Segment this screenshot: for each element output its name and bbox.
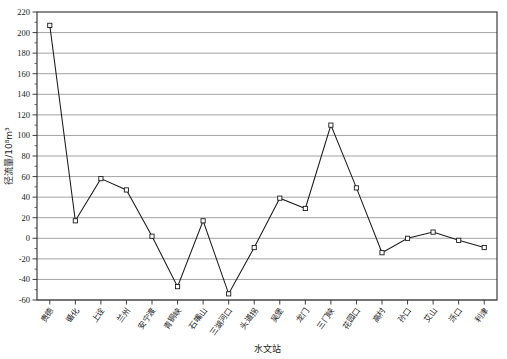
- data-point: [482, 245, 486, 249]
- data-point: [354, 186, 358, 190]
- x-tick-label: 龙门: [294, 305, 311, 324]
- y-tick-label: 0: [26, 233, 30, 243]
- data-point: [124, 188, 128, 192]
- x-tick-label: 三门峡: [315, 305, 337, 330]
- x-tick-label: 循化: [64, 305, 81, 324]
- x-tick-label: 利津: [472, 305, 489, 324]
- x-tick-label: 贵德: [38, 305, 55, 324]
- x-tick-label: 高村: [370, 305, 387, 324]
- y-tick-label: 120: [17, 110, 30, 120]
- data-point: [380, 251, 384, 255]
- y-tick-label: 180: [17, 48, 30, 58]
- y-axis-title: 径流量/10⁸m³: [3, 127, 14, 185]
- gridlines: [37, 33, 497, 300]
- y-tick-label: 140: [17, 89, 30, 99]
- data-point: [457, 238, 461, 242]
- chart-canvas: -60-40-20020406080100120140160180200220径…: [0, 0, 507, 359]
- x-tick-label: 上诠: [89, 305, 106, 324]
- x-tick-label: 花园口: [340, 305, 362, 330]
- y-tick-label: 20: [22, 213, 31, 223]
- data-point: [73, 219, 77, 223]
- x-axis-title: 水文站: [254, 343, 281, 354]
- y-tick-label: 220: [17, 7, 30, 17]
- y-tick-label: 200: [17, 28, 30, 38]
- y-tick-label: -20: [19, 254, 30, 264]
- y-tick-label: 100: [17, 130, 30, 140]
- data-point: [329, 123, 333, 127]
- data-point: [175, 285, 179, 289]
- data-point: [405, 236, 409, 240]
- data-point: [99, 177, 103, 181]
- x-tick-label: 兰州: [115, 305, 132, 324]
- y-tick-label: -40: [19, 274, 30, 284]
- data-point: [201, 219, 205, 223]
- x-tick-label: 泺口: [447, 305, 464, 324]
- data-point: [227, 292, 231, 296]
- x-tick-label: 吴堡: [268, 305, 285, 324]
- x-tick-label: 孙口: [396, 305, 413, 324]
- x-tick-label: 石嘴山: [187, 305, 209, 330]
- y-tick-label: 40: [22, 192, 31, 202]
- data-point: [252, 245, 256, 249]
- y-tick-label: 60: [22, 172, 31, 182]
- y-tick-label: 80: [22, 151, 31, 161]
- x-tick-label: 三湖河口: [208, 305, 235, 337]
- y-axis: -60-40-20020406080100120140160180200220: [17, 7, 37, 305]
- data-point-markers: [48, 23, 487, 296]
- runoff-line-chart: -60-40-20020406080100120140160180200220径…: [0, 0, 507, 359]
- x-tick-label: 安宁渡: [136, 305, 158, 330]
- x-tick-label: 艾山: [421, 305, 438, 324]
- data-point: [303, 206, 307, 210]
- x-tick-label: 头道拐: [238, 305, 260, 330]
- data-point: [48, 23, 52, 27]
- data-point: [431, 230, 435, 234]
- x-axis: 贵德循化上诠兰州安宁渡青铜峡石嘴山三湖河口头道拐吴堡龙门三门峡花园口高村孙口艾山…: [38, 300, 490, 337]
- data-point: [278, 196, 282, 200]
- data-series-line: [50, 25, 484, 293]
- y-tick-label: 160: [17, 69, 30, 79]
- x-tick-label: 青铜峡: [161, 305, 183, 330]
- data-point: [150, 234, 154, 238]
- y-tick-label: -60: [19, 295, 30, 305]
